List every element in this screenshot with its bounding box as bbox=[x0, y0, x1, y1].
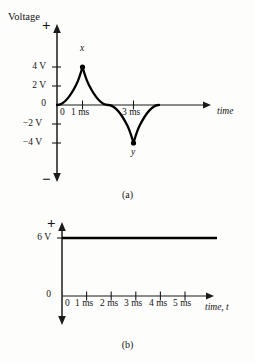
graph-a: Voltage + − 4 V 2 V 0 −2 V −4 V 0 1 ms 3… bbox=[0, 0, 255, 200]
graph-a-yticklabel-0: 0 bbox=[12, 99, 46, 109]
caption-a: (a) bbox=[0, 190, 255, 200]
graph-a-point-y-marker bbox=[131, 140, 136, 145]
graph-a-point-label-y: y bbox=[131, 148, 135, 158]
graph-b-yticklabel-0: 0 bbox=[17, 290, 51, 300]
graph-b-x-axis-arrow bbox=[206, 292, 214, 299]
graph-a-xticklabel-3ms: 3 ms bbox=[122, 108, 140, 118]
graph-a-point-label-x: x bbox=[80, 44, 84, 54]
graph-a-polarity-minus: − bbox=[42, 172, 51, 187]
graph-a-yticklabel-2v: 2 V bbox=[12, 81, 46, 91]
graph-b-xticklabel-2ms: 2 ms bbox=[100, 299, 118, 309]
graph-a-yticklabel-minus-4v: −4 V bbox=[8, 138, 42, 148]
graph-a-axis-label-x: time bbox=[217, 107, 233, 117]
graph-b-yticklabel-6v: 6 V bbox=[17, 233, 51, 243]
caption-b: (b) bbox=[0, 340, 255, 350]
graph-a-yticklabel-minus-2v: −2 V bbox=[8, 119, 42, 129]
graph-b-polarity-plus: + bbox=[47, 216, 56, 231]
graph-b-xticklabel-5ms: 5 ms bbox=[173, 299, 191, 309]
graph-a-y-axis-arrow-up bbox=[53, 24, 61, 33]
graph-b-axis-label-x: time, t bbox=[205, 303, 229, 313]
graph-a-polarity-plus: + bbox=[42, 18, 51, 33]
graph-a-point-x-marker bbox=[80, 64, 85, 69]
graph-b-xticklabel-0: 0 bbox=[65, 299, 70, 309]
graph-b-y-axis-arrow-down bbox=[58, 316, 66, 325]
graph-a-xticklabel-0: 0 bbox=[60, 108, 65, 118]
graph-a-xticklabel-1ms: 1 ms bbox=[71, 108, 89, 118]
graph-b-xticklabel-4ms: 4 ms bbox=[149, 299, 167, 309]
graph-a-yticklabel-4v: 4 V bbox=[12, 62, 46, 72]
graph-b-xticklabel-3ms: 3 ms bbox=[124, 299, 142, 309]
figure-page: Voltage + − 4 V 2 V 0 −2 V −4 V 0 1 ms 3… bbox=[0, 0, 255, 363]
graph-b-y-axis-arrow-up bbox=[58, 222, 66, 231]
graph-b-xticklabel-1ms: 1 ms bbox=[75, 299, 93, 309]
graph-a-y-axis-arrow-down bbox=[53, 173, 61, 182]
graph-a-x-axis-arrow bbox=[203, 101, 211, 108]
graph-a-axis-label-y: Voltage bbox=[8, 12, 40, 23]
